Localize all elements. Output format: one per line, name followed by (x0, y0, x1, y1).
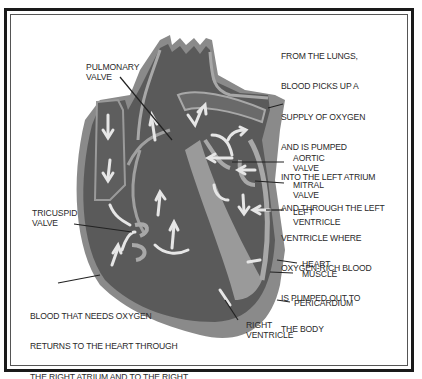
caption-line: INTO THE LEFT ATRIUM (281, 172, 385, 182)
label-tricuspid-valve: TRICUSPID VALVE (32, 208, 77, 228)
caption-oxygenated: FROM THE LUNGS, BLOOD PICKS UP A SUPPLY … (281, 31, 385, 344)
caption-line: THE BODY (281, 324, 385, 334)
caption-line: THE RIGHT ATRIUM AND TO THE RIGHT (30, 372, 188, 379)
superior-vena-cava (95, 100, 125, 200)
label-pulmonary-valve: PULMONARY VALVE (86, 62, 139, 82)
caption-line: AND IS PUMPED (281, 142, 385, 152)
caption-line: AND THROUGH THE LEFT (281, 203, 385, 213)
caption-deoxygenated: BLOOD THAT NEEDS OXYGEN RETURNS TO THE H… (30, 291, 188, 379)
caption-line: SUPPLY OF OXYGEN (281, 112, 385, 122)
caption-line: RETURNS TO THE HEART THROUGH (30, 341, 188, 351)
caption-line: VENTRICLE WHERE (281, 233, 385, 243)
caption-line: BLOOD THAT NEEDS OXYGEN (30, 311, 188, 321)
caption-line: OXYGEN-RICH BLOOD (281, 263, 385, 273)
caption-line: BLOOD PICKS UP A (281, 81, 385, 91)
caption-line: IS PUMPED OUT TO (281, 293, 385, 303)
caption-line: FROM THE LUNGS, (281, 51, 385, 61)
